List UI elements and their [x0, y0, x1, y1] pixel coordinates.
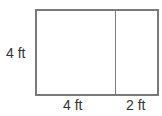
width-part2-label: 2 ft: [126, 98, 145, 112]
divider-line: [115, 10, 116, 94]
width-part1-label: 4 ft: [63, 98, 82, 112]
outer-rectangle: [35, 9, 159, 96]
height-label: 4 ft: [6, 46, 25, 60]
